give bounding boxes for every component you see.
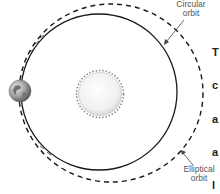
orbit-direction-marks (30, 35, 51, 155)
circular-orbit-pointer (164, 20, 184, 45)
circular-orbit-label: Circular orbit (170, 0, 212, 18)
cut-off-caption-text: T c a a l f t t c e a (212, 25, 220, 194)
caption-char: a (212, 114, 220, 125)
caption-char: a (212, 147, 220, 158)
elliptical-orbit-pointer (181, 150, 193, 165)
sun-icon (77, 71, 124, 118)
caption-char: c (212, 80, 220, 91)
caption-char: l (212, 180, 220, 191)
caption-char: T (212, 47, 220, 58)
earth-icon (9, 80, 31, 102)
circular-label-line2: orbit (170, 9, 212, 18)
